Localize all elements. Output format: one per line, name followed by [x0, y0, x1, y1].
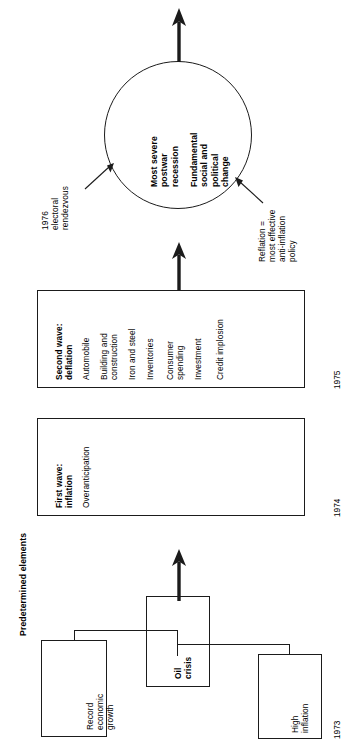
panel-second-wave-item-6: Credit implosion: [216, 319, 226, 380]
outcome-line-2: Fundamentalsocial andpoliticalchange: [189, 132, 230, 187]
year-label-1975: 1975: [333, 371, 343, 389]
diagram-header: Predetermined elements: [18, 533, 28, 636]
diagram-header-label: Predetermined elements: [18, 533, 28, 636]
panel-second-wave[interactable]: Second wave:deflation Automobile Buildin…: [37, 290, 305, 388]
box-high-inflation-label: Highinflation: [291, 704, 311, 734]
panel-first-wave[interactable]: First wave:inflation Overanticipation: [37, 418, 305, 516]
panel-second-wave-item-5: Investment: [194, 338, 204, 380]
annotation-electoral-rendezvous: 1976electoralrendezvous: [41, 186, 71, 230]
connector-inflation-horizontal: [178, 644, 290, 645]
box-record-economic-growth[interactable]: Recordeconomicgrowth: [41, 640, 107, 737]
panel-second-wave-item-0: Automobile: [82, 337, 92, 380]
outcome-circle[interactable]: Most severepostwarrecession Fundamentals…: [104, 61, 252, 209]
year-label-1974: 1974: [333, 499, 343, 517]
box-high-inflation[interactable]: Highinflation: [258, 654, 322, 739]
outcome-line-1: Most severepostwarrecession: [149, 136, 180, 187]
arrow-outcome-forward: [170, 8, 188, 62]
box-record-economic-growth-label: Recordeconomicgrowth: [86, 694, 116, 730]
arrow-oil-crisis-to-first-wave: [170, 549, 188, 601]
diagram-canvas: Predetermined elements Recordeconomicgro…: [0, 0, 356, 755]
connector-growth-horizontal: [74, 630, 178, 631]
panel-second-wave-title: Second wave:deflation: [55, 323, 75, 380]
annotation-reflation-policy: Reflation =most effectiveanti-inflationp…: [258, 210, 298, 262]
panel-first-wave-title: First wave:inflation: [55, 464, 75, 508]
annotation-arrow-reflation: [232, 172, 266, 206]
connector-into-oil-bottom: [177, 644, 178, 656]
year-label-1973: 1973: [333, 721, 343, 739]
annotation-arrow-electoral: [83, 158, 117, 192]
panel-second-wave-item-2: Iron and steel: [128, 328, 138, 380]
connector-inflation-stub: [289, 644, 290, 655]
arrow-second-wave-to-outcome: [170, 242, 188, 290]
panel-second-wave-item-4: Consumerspending: [166, 341, 186, 380]
connector-growth-stub: [74, 630, 75, 641]
panel-second-wave-item-3: Inventories: [146, 338, 156, 380]
panel-first-wave-item-0: Overanticipation: [82, 446, 92, 508]
connector-into-oil-top: [177, 630, 178, 644]
panel-second-wave-item-1: Building andconstruction: [100, 333, 120, 380]
